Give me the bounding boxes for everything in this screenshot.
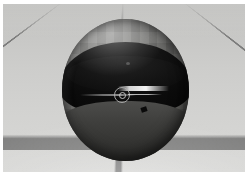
page-margin-bottom (0, 172, 251, 182)
gizmo-x-axis-handle[interactable] (128, 94, 162, 95)
page-margin-right (245, 0, 251, 182)
gizmo-center-icon[interactable] (119, 92, 126, 99)
screenshot-root (0, 0, 251, 182)
page-margin-left (0, 0, 3, 182)
page-margin-top (0, 0, 251, 4)
perspective-viewport[interactable] (3, 4, 245, 172)
transform-gizmo[interactable] (113, 86, 131, 104)
